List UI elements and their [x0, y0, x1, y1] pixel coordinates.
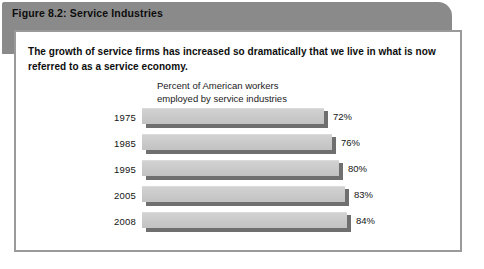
bar-shadow-bottom: [146, 124, 328, 128]
bar-category-label: 2008: [76, 216, 136, 227]
bar-chart: 197572%198576%199580%200583%200884%: [16, 108, 460, 248]
bar-row: 200884%: [16, 212, 460, 238]
bar-row: 200583%: [16, 186, 460, 212]
chart-caption: Percent of American workers employed by …: [157, 80, 287, 105]
bar-value-label: 76%: [341, 137, 360, 148]
figure-title: Figure 8.2: Service Industries: [12, 7, 163, 19]
bar-fill: [142, 160, 339, 176]
bar-fill: [142, 108, 324, 124]
bar-shadow-right: [345, 189, 349, 206]
bar-shadow-bottom: [146, 176, 343, 180]
bar-category-label: 1975: [76, 112, 136, 123]
bar-value-label: 72%: [333, 111, 352, 122]
bar-category-label: 1995: [76, 164, 136, 175]
bar-track: [142, 108, 328, 128]
bar-value-label: 80%: [348, 163, 367, 174]
bar-shadow-bottom: [146, 202, 349, 206]
bar-shadow-bottom: [146, 150, 336, 154]
bar-fill: [142, 186, 345, 202]
bar-row: 199580%: [16, 160, 460, 186]
bar-fill: [142, 212, 347, 228]
bar-row: 198576%: [16, 134, 460, 160]
bar-shadow-right: [347, 215, 351, 232]
bar-track: [142, 160, 343, 180]
bar-shadow-right: [324, 111, 328, 128]
figure-content-card: The growth of service firms has increase…: [14, 30, 462, 252]
bar-track: [142, 212, 351, 232]
bar-shadow-right: [339, 163, 343, 180]
bar-track: [142, 134, 336, 154]
figure-container: Figure 8.2: Service Industries The growt…: [0, 0, 484, 269]
bar-track: [142, 186, 349, 206]
bar-fill: [142, 134, 332, 150]
bar-category-label: 1985: [76, 138, 136, 149]
bar-row: 197572%: [16, 108, 460, 134]
bar-category-label: 2005: [76, 190, 136, 201]
bar-value-label: 84%: [356, 215, 375, 226]
bar-value-label: 83%: [354, 189, 373, 200]
lead-paragraph: The growth of service firms has increase…: [28, 44, 452, 74]
bar-shadow-bottom: [146, 228, 351, 232]
bar-shadow-right: [332, 137, 336, 154]
